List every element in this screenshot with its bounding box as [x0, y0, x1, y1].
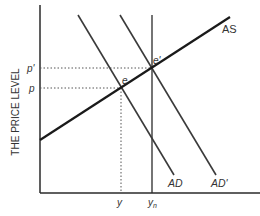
- ad-prime-label: AD': [210, 177, 229, 189]
- p-prime-tick-label: p': [26, 63, 36, 74]
- ad-label: AD: [167, 177, 183, 189]
- point-e-label: e: [122, 75, 128, 86]
- as-curve: [40, 17, 230, 140]
- y-tick-label: y: [116, 197, 123, 208]
- ad-prime-curve: [120, 15, 216, 175]
- as-label: AS: [222, 23, 237, 35]
- p-tick-label: p: [28, 83, 35, 94]
- point-e-prime-label: e': [153, 55, 162, 66]
- yn-tick-label: yn: [147, 197, 157, 209]
- ad-as-diagram: AS AD AD' e e' p' p y yn THE PRICE LEVEL: [0, 0, 260, 216]
- ad-curve: [78, 15, 174, 175]
- y-axis-label: THE PRICE LEVEL: [10, 68, 21, 156]
